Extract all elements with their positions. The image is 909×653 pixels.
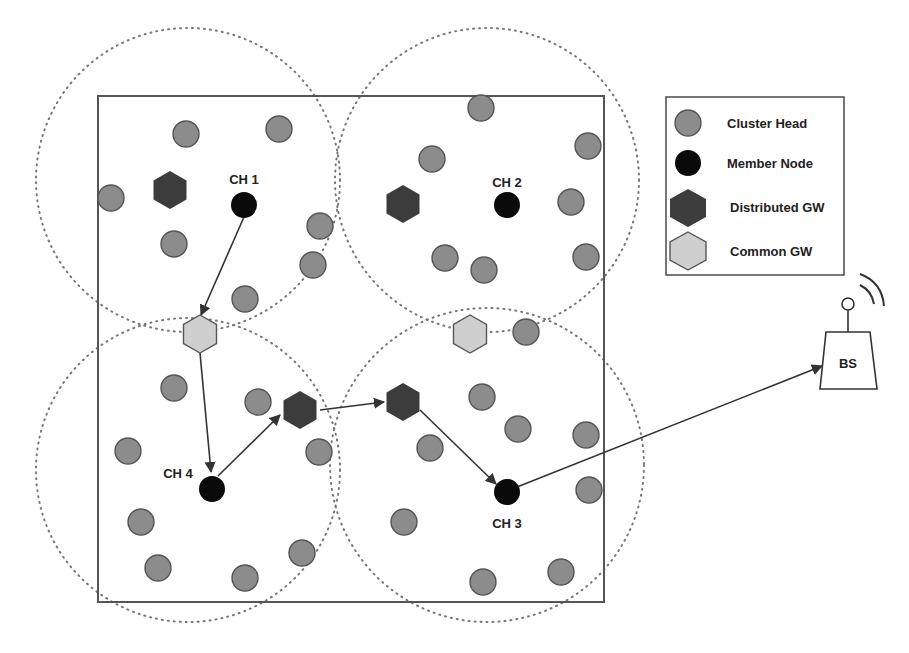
sensor-node-icon <box>573 244 599 270</box>
sensor-node-icon <box>145 555 171 581</box>
sensor-node-icon <box>128 509 154 535</box>
legend-item-label: Common GW <box>730 244 813 259</box>
sensor-node-icon <box>417 435 443 461</box>
cluster-head-node-icon <box>199 476 225 502</box>
sensor-node-icon <box>505 416 531 442</box>
sensor-node-icon <box>575 133 601 159</box>
cluster-range-circles <box>36 28 644 622</box>
antenna-icon <box>842 298 854 310</box>
cluster-head-label: CH 2 <box>492 175 522 190</box>
member-node-legend-icon <box>675 150 701 176</box>
sensor-node-icon <box>173 121 199 147</box>
routing-link-arrow <box>218 415 280 476</box>
sensor-node-icon <box>300 252 326 278</box>
cluster-head-legend-icon <box>675 110 701 136</box>
sensor-node-icon <box>307 213 333 239</box>
distributed-gateway-icon <box>387 185 420 223</box>
cluster-head-node-icon <box>494 192 520 218</box>
sensor-node-icon <box>471 257 497 283</box>
cluster-head-label: CH 3 <box>492 516 522 531</box>
sensor-node-icon <box>266 116 292 142</box>
sensor-node-icon <box>306 439 332 465</box>
sensor-node-icon <box>432 245 458 271</box>
routing-link-arrow <box>320 402 384 410</box>
sensor-node-icon <box>391 509 417 535</box>
sensor-nodes <box>98 95 602 595</box>
sensor-node-icon <box>161 375 187 401</box>
cluster-head-label: CH 1 <box>229 172 259 187</box>
cluster-range-circle <box>36 28 340 332</box>
base-station-label: BS <box>839 356 857 371</box>
sensor-node-icon <box>289 540 315 566</box>
distributed-gateway-icon <box>387 383 420 421</box>
sensor-node-icon <box>115 438 141 464</box>
distributed-gateway-icon <box>154 171 187 209</box>
cluster-head-node-icon <box>231 192 257 218</box>
cluster-head-node-icon <box>494 479 520 505</box>
sensor-node-icon <box>558 189 584 215</box>
cluster-range-circle <box>335 28 639 332</box>
routing-link-arrow <box>200 353 211 472</box>
sensor-node-icon <box>98 185 124 211</box>
signal-wave-icon <box>860 274 884 306</box>
sensor-node-icon <box>548 559 574 585</box>
sensor-node-icon <box>232 286 258 312</box>
legend-item-label: Member Node <box>727 156 813 171</box>
sensor-node-icon <box>232 565 258 591</box>
sensor-node-icon <box>470 569 496 595</box>
sensor-node-icon <box>419 146 445 172</box>
cluster-head-label: CH 4 <box>163 466 193 481</box>
network-diagram: CH 1CH 2CH 4CH 3 BS Cluster Head Member … <box>0 0 909 653</box>
routing-link-arrow <box>517 366 822 487</box>
signal-wave-icon <box>860 285 874 304</box>
sensor-node-icon <box>161 231 187 257</box>
sensor-node-icon <box>468 95 494 121</box>
sensor-node-icon <box>245 389 271 415</box>
common-gateway-icon <box>184 315 217 353</box>
sensor-field <box>98 96 604 602</box>
distributed-gateway-icon <box>284 391 317 429</box>
legend-item-label: Cluster Head <box>727 116 807 131</box>
sensor-node-icon <box>576 477 602 503</box>
diagram-canvas: CH 1CH 2CH 4CH 3 BS Cluster Head Member … <box>0 0 909 653</box>
sensor-node-icon <box>513 319 539 345</box>
legend-item-label: Distributed GW <box>730 200 825 215</box>
legend: Cluster Head Member Node Distributed GW … <box>666 97 844 275</box>
common-gateway-icon <box>454 315 487 353</box>
sensor-node-icon <box>573 422 599 448</box>
sensor-node-icon <box>469 384 495 410</box>
base-station: BS <box>820 274 884 389</box>
